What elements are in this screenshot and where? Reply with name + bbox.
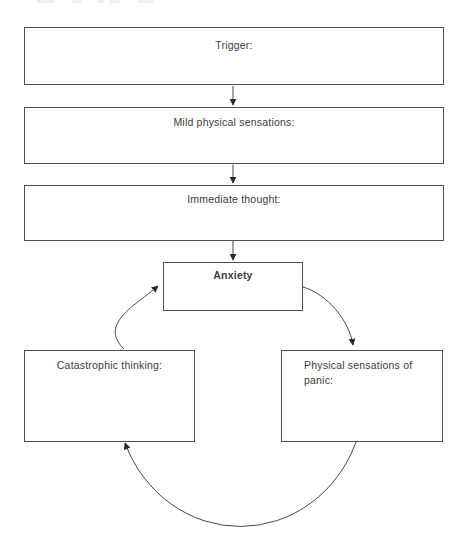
catastrophic-to-anxiety-curve-arrow [115,286,158,349]
panic-cycle-diagram: Trigger: Mild physical sensations: Immed… [0,0,467,553]
mild-physical-sensations-box: Mild physical sensations: [24,107,444,164]
mild-physical-sensations-box-label: Mild physical sensations: [173,116,294,128]
immediate-thought-box-label: Immediate thought: [187,193,281,205]
catastrophic-thinking-box-label: Catastrophic thinking: [57,359,162,371]
immediate-thought-box: Immediate thought: [24,185,444,241]
anxiety-to-physical-curve-arrow [303,287,353,345]
trigger-box-label: Trigger: [215,39,252,51]
physical-to-catastrophic-curve-arrow [125,442,356,526]
physical-sensations-of-panic-box-label: Physical sensations of panic: [304,359,412,386]
catastrophic-thinking-box: Catastrophic thinking: [24,350,195,442]
anxiety-box: Anxiety [163,262,303,311]
anxiety-box-label: Anxiety [213,269,252,281]
physical-sensations-of-panic-box: Physical sensations of panic: [281,350,443,442]
trigger-box: Trigger: [24,27,444,85]
